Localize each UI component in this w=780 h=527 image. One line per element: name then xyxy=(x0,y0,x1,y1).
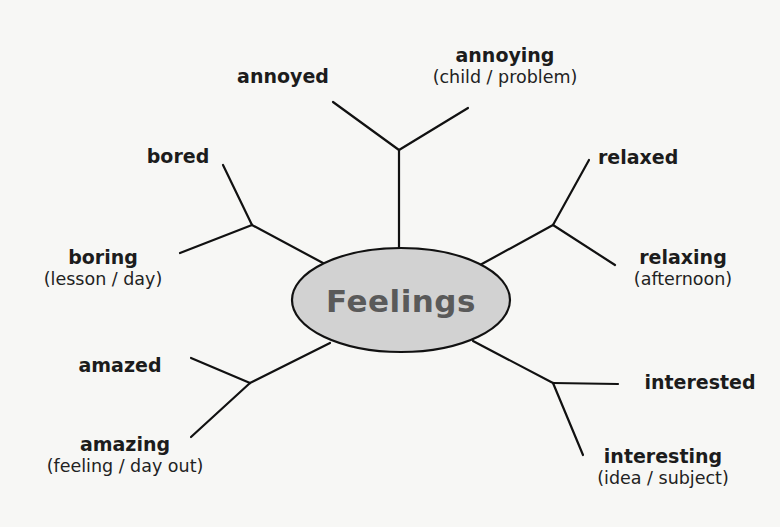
node-interested: interested xyxy=(640,372,760,394)
node-word: annoyed xyxy=(228,66,338,88)
node-word: bored xyxy=(133,146,223,168)
branch-lower-left-lines xyxy=(191,343,330,437)
node-word: annoying xyxy=(420,45,590,67)
node-word: boring xyxy=(38,247,168,269)
node-word: relaxed xyxy=(598,147,678,169)
node-relaxing: relaxing (afternoon) xyxy=(618,247,748,289)
node-boring: boring (lesson / day) xyxy=(38,247,168,289)
node-note: (feeling / day out) xyxy=(20,456,230,476)
node-word: amazing xyxy=(20,434,230,456)
node-amazing: amazing (feeling / day out) xyxy=(20,434,230,476)
node-amazed: amazed xyxy=(70,355,170,377)
node-interesting: interesting (idea / subject) xyxy=(578,446,748,488)
node-note: (idea / subject) xyxy=(578,468,748,488)
branch-top-lines xyxy=(333,102,468,248)
node-word: relaxing xyxy=(618,247,748,269)
node-relaxed: relaxed xyxy=(598,147,678,169)
node-note: (child / problem) xyxy=(420,67,590,87)
center-node-label: Feelings xyxy=(292,248,510,353)
node-word: interesting xyxy=(578,446,748,468)
node-annoying: annoying (child / problem) xyxy=(420,45,590,87)
branch-lower-right-lines xyxy=(473,341,618,455)
node-note: (afternoon) xyxy=(618,269,748,289)
node-word: interested xyxy=(640,372,760,394)
node-note: (lesson / day) xyxy=(38,269,168,289)
node-word: amazed xyxy=(70,355,170,377)
node-annoyed: annoyed xyxy=(228,66,338,88)
node-bored: bored xyxy=(133,146,223,168)
